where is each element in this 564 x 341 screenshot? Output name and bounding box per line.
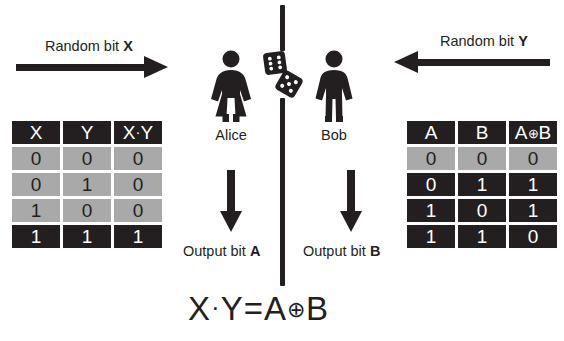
header-cell-xy: X·Y	[114, 121, 162, 144]
cell-result: 0	[114, 147, 162, 170]
header-x: X	[123, 122, 136, 143]
cell-result: 0	[509, 147, 557, 170]
alice-name: Alice	[203, 127, 259, 143]
header-cell-axorb: A⊕B	[509, 121, 557, 144]
formula-y: Y	[221, 290, 244, 327]
center-divider-top	[280, 5, 285, 51]
table-row: 0 0 0	[12, 147, 162, 170]
alice-figure	[203, 50, 259, 126]
cell-a: 0	[407, 147, 455, 170]
xor-operator-icon: ⊕	[528, 126, 539, 141]
random-bit-x-arrow	[16, 56, 168, 78]
table-body: 0 0 0 0 1 1 1 0 1 1 1 0	[407, 147, 557, 248]
table-row: 1 0 1	[407, 199, 557, 222]
cell-result: 0	[114, 173, 162, 196]
table-row: 1 1 1	[12, 225, 162, 248]
output-bit-a-text: Output bit	[183, 243, 250, 259]
table-row: 0 1 1	[407, 173, 557, 196]
formula-equals: =	[244, 290, 264, 327]
header-cell-y: Y	[63, 121, 111, 144]
two-dice-icon	[260, 50, 310, 102]
output-bit-a-arrow	[220, 170, 242, 232]
formula-b: B	[306, 290, 329, 327]
arrow-shaft	[227, 170, 235, 213]
formula-and-operator-icon: ·	[211, 292, 221, 322]
table-header-row: X Y X·Y	[12, 121, 162, 144]
random-bit-x-text: Random bit	[45, 38, 123, 54]
cell-a: 1	[407, 225, 455, 248]
random-bit-y-bit: Y	[518, 33, 528, 49]
random-bit-y-arrow	[394, 51, 550, 73]
output-bit-a-bit: A	[250, 243, 260, 259]
arrow-shaft	[416, 59, 550, 66]
random-bit-x-bit: X	[123, 38, 133, 54]
header-a: A	[515, 122, 528, 143]
cell-x: 0	[12, 147, 60, 170]
output-bit-b-bit: B	[370, 243, 380, 259]
table-body: 0 0 0 0 1 0 1 0 0 1 1 1	[12, 147, 162, 248]
cell-x: 1	[12, 199, 60, 222]
formula-xor-operator-icon: ⊕	[287, 297, 306, 322]
output-bit-a-label: Output bit A	[183, 243, 260, 259]
table-row: 1 1 0	[407, 225, 557, 248]
random-bit-y-text: Random bit	[440, 33, 518, 49]
header-b: B	[539, 122, 552, 143]
random-bit-y-label: Random bit Y	[440, 33, 528, 49]
xor-truth-table: A B A⊕B 0 0 0 0 1 1 1 0 1 1 1	[404, 118, 560, 251]
arrow-head-left-icon	[394, 51, 418, 73]
table-row: 0 0 0	[407, 147, 557, 170]
dice-group	[260, 50, 310, 106]
cell-y: 0	[63, 199, 111, 222]
table-header: A B A⊕B	[407, 121, 557, 144]
header-cell-a: A	[407, 121, 455, 144]
output-bit-b-label: Output bit B	[303, 243, 380, 259]
arrow-head-down-icon	[340, 211, 362, 232]
table-row: 1 0 0	[12, 199, 162, 222]
and-truth-table: X Y X·Y 0 0 0 0 1 0 1 0 0 1 1	[9, 118, 165, 251]
header-cell-b: B	[458, 121, 506, 144]
table-header: X Y X·Y	[12, 121, 162, 144]
diagram-canvas: Random bit X Random bit Y Alice Bob	[0, 0, 564, 341]
cell-y: 1	[63, 225, 111, 248]
cell-y: 0	[63, 147, 111, 170]
cell-b: 0	[458, 199, 506, 222]
arrow-shaft	[347, 170, 355, 213]
formula-x: X	[188, 290, 211, 327]
arrow-head-right-icon	[144, 56, 168, 78]
cell-result: 1	[114, 225, 162, 248]
cell-y: 1	[63, 173, 111, 196]
output-bit-b-arrow	[340, 170, 362, 232]
random-bit-x-label: Random bit X	[45, 38, 133, 54]
center-divider-bottom	[280, 98, 285, 286]
cell-a: 1	[407, 199, 455, 222]
cell-x: 0	[12, 173, 60, 196]
arrow-shaft	[16, 64, 146, 71]
bob-figure	[308, 50, 360, 126]
cell-result: 1	[509, 173, 557, 196]
table-header-row: A B A⊕B	[407, 121, 557, 144]
female-figure-icon	[203, 50, 259, 122]
output-bit-b-text: Output bit	[303, 243, 370, 259]
male-figure-icon	[308, 50, 360, 122]
header-y: Y	[141, 122, 154, 143]
header-cell-x: X	[12, 121, 60, 144]
table-row: 0 1 0	[12, 173, 162, 196]
cell-x: 1	[12, 225, 60, 248]
cell-b: 0	[458, 147, 506, 170]
formula-a: A	[264, 290, 287, 327]
cell-b: 1	[458, 173, 506, 196]
cell-result: 0	[114, 199, 162, 222]
bob-name: Bob	[306, 127, 362, 143]
cell-b: 1	[458, 225, 506, 248]
cell-a: 0	[407, 173, 455, 196]
arrow-head-down-icon	[220, 211, 242, 232]
game-formula: X·Y=A⊕B	[188, 290, 329, 328]
cell-result: 1	[509, 199, 557, 222]
cell-result: 0	[509, 225, 557, 248]
